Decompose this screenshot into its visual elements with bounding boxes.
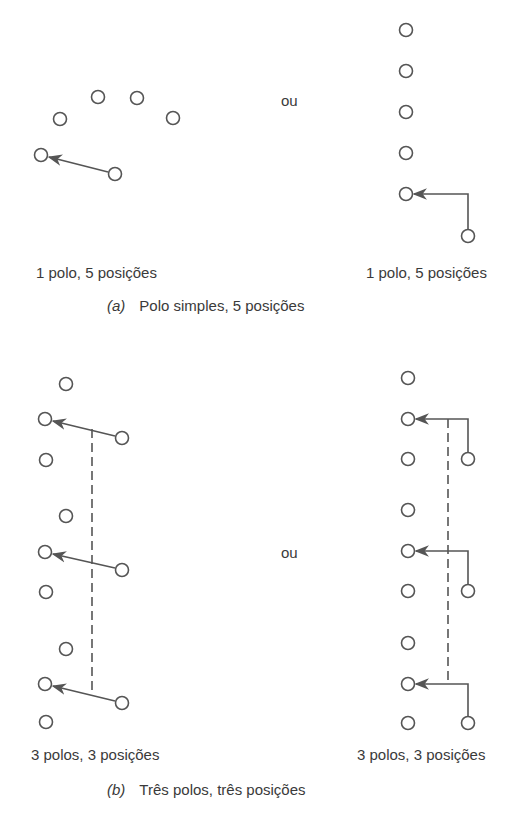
- contact-terminal: [400, 188, 413, 201]
- contact-terminal: [402, 372, 415, 385]
- contact-terminal: [40, 586, 53, 599]
- caption-b-text: Três polos, três posições: [139, 781, 305, 798]
- contact-terminal: [92, 91, 105, 104]
- caption-b-tag: (b): [107, 781, 125, 798]
- contact-terminal: [60, 510, 73, 523]
- caption-a-tag: (a): [107, 297, 125, 314]
- pole-terminal: [116, 697, 129, 710]
- contact-terminal: [35, 149, 48, 162]
- caption-a: (a)Polo simples, 5 posições: [107, 297, 304, 314]
- separator-or-a: ou: [281, 92, 298, 109]
- contact-terminal: [402, 717, 415, 730]
- rotary-switch-3p3t: [39, 378, 129, 729]
- contact-terminal: [39, 546, 52, 559]
- switch-arm-arrow: [416, 551, 468, 584]
- switch-diagram: [0, 0, 531, 829]
- contact-terminal: [400, 65, 413, 78]
- contact-terminal: [54, 113, 67, 126]
- contact-terminal: [402, 413, 415, 426]
- contact-terminal: [402, 504, 415, 517]
- contact-terminal: [60, 643, 73, 656]
- label-rotary-1p5t: 1 polo, 5 posições: [36, 264, 157, 281]
- switch-arm-arrow: [53, 686, 115, 701]
- contact-terminal: [167, 112, 180, 125]
- label-linear-1p5t: 1 polo, 5 posições: [366, 264, 487, 281]
- pole-terminal: [116, 564, 129, 577]
- switch-arm-arrow: [49, 157, 108, 172]
- switch-arm-arrow: [416, 419, 468, 452]
- contact-terminal: [131, 92, 144, 105]
- contact-terminal: [400, 24, 413, 37]
- contact-terminal: [402, 545, 415, 558]
- contact-terminal: [39, 413, 52, 426]
- pole-terminal: [462, 453, 475, 466]
- contact-terminal: [40, 454, 53, 467]
- switch-arm-arrow: [53, 421, 115, 436]
- pole-terminal: [116, 432, 129, 445]
- linear-switch-1p5t: [400, 24, 475, 243]
- caption-a-text: Polo simples, 5 posições: [139, 297, 304, 314]
- linear-switch-3p3t: [402, 372, 475, 730]
- contact-terminal: [60, 378, 73, 391]
- contact-terminal: [400, 147, 413, 160]
- contact-terminal: [400, 106, 413, 119]
- contact-terminal: [402, 585, 415, 598]
- contact-terminal: [402, 678, 415, 691]
- switch-arm-arrow: [414, 194, 468, 229]
- switch-arm-arrow: [53, 554, 115, 568]
- pole-terminal: [462, 585, 475, 598]
- label-rotary-3p3t: 3 polos, 3 posições: [31, 746, 159, 763]
- contact-terminal: [39, 678, 52, 691]
- contact-terminal: [402, 453, 415, 466]
- rotary-switch-1p5t: [35, 91, 180, 181]
- pole-terminal: [462, 717, 475, 730]
- separator-or-b: ou: [281, 544, 298, 561]
- contact-terminal: [40, 716, 53, 729]
- caption-b: (b)Três polos, três posições: [107, 781, 306, 798]
- switch-arm-arrow: [416, 684, 468, 716]
- label-linear-3p3t: 3 polos, 3 posições: [357, 746, 485, 763]
- contact-terminal: [402, 637, 415, 650]
- pole-terminal: [462, 230, 475, 243]
- pole-terminal: [109, 168, 122, 181]
